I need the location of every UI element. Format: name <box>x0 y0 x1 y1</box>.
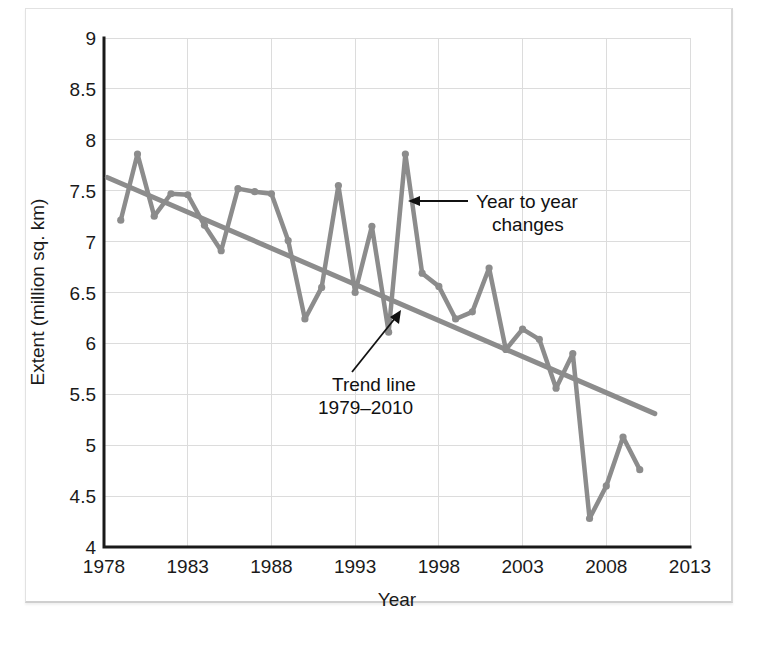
annotation-label-trend-line2: 1979–2010 <box>318 397 413 418</box>
data-point <box>368 223 375 230</box>
data-point <box>352 289 359 296</box>
figure-page: 9 8.5 8 7.5 7 6.5 6 5.5 5 4.5 4 1978 198… <box>0 0 757 646</box>
x-axis-tick-labels: 1978 1983 1988 1993 1998 2003 2008 2013 <box>83 556 711 577</box>
y-tick-6.5: 6.5 <box>70 283 96 304</box>
x-tick-2008: 2008 <box>585 556 627 577</box>
data-point <box>619 433 626 440</box>
y-tick-9: 9 <box>85 28 96 49</box>
y-tick-4: 4 <box>85 537 96 558</box>
data-point <box>603 482 610 489</box>
data-point <box>502 346 509 353</box>
x-axis-title: Year <box>378 589 417 610</box>
annotation-trend-line: Trend line 1979–2010 <box>318 310 416 418</box>
data-point <box>452 315 459 322</box>
data-point <box>234 185 241 192</box>
annotation-arrow-line-trend <box>352 317 396 372</box>
data-point <box>485 264 492 271</box>
x-tick-1998: 1998 <box>418 556 460 577</box>
y-tick-8: 8 <box>85 130 96 151</box>
y-tick-8.5: 8.5 <box>70 79 96 100</box>
data-point <box>636 466 643 473</box>
x-tick-1993: 1993 <box>334 556 376 577</box>
data-point <box>201 222 208 229</box>
data-point <box>285 237 292 244</box>
grid-lines <box>104 38 690 547</box>
data-point <box>569 350 576 357</box>
data-point <box>536 336 543 343</box>
data-point <box>552 385 559 392</box>
x-tick-1978: 1978 <box>83 556 125 577</box>
data-point <box>301 315 308 322</box>
data-point <box>268 190 275 197</box>
y-tick-7.5: 7.5 <box>70 181 96 202</box>
x-tick-2013: 2013 <box>669 556 711 577</box>
y-axis-tick-labels: 9 8.5 8 7.5 7 6.5 6 5.5 5 4.5 4 <box>70 28 97 558</box>
x-tick-2003: 2003 <box>501 556 543 577</box>
y-tick-5: 5 <box>85 435 96 456</box>
y-axis-title: Extent (million sq. km) <box>27 199 48 386</box>
y-tick-5.5: 5.5 <box>70 384 96 405</box>
data-point <box>469 308 476 315</box>
annotation-label-trend-line1: Trend line <box>332 374 416 395</box>
data-point <box>586 515 593 522</box>
y-tick-7: 7 <box>85 232 96 253</box>
data-point <box>419 270 426 277</box>
x-tick-1983: 1983 <box>167 556 209 577</box>
data-point <box>251 188 258 195</box>
data-point <box>519 326 526 333</box>
annotation-year-to-year-changes: Year to year changes <box>408 191 578 235</box>
data-point <box>151 213 158 220</box>
data-point <box>117 217 124 224</box>
data-point <box>167 190 174 197</box>
line-chart: 9 8.5 8 7.5 7 6.5 6 5.5 5 4.5 4 1978 198… <box>0 0 757 646</box>
data-point <box>318 284 325 291</box>
y-tick-4.5: 4.5 <box>70 486 96 507</box>
data-point <box>435 283 442 290</box>
annotation-label-year-to-year-line1: Year to year <box>476 191 578 212</box>
y-tick-6: 6 <box>85 333 96 354</box>
data-point <box>218 247 225 254</box>
data-point <box>184 191 191 198</box>
annotation-label-year-to-year-line2: changes <box>492 214 564 235</box>
data-point <box>402 150 409 157</box>
data-point <box>335 182 342 189</box>
x-tick-1988: 1988 <box>250 556 292 577</box>
data-point <box>134 150 141 157</box>
